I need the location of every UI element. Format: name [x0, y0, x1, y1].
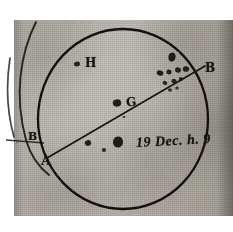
label-neighbor-axis-end-b: B: [28, 131, 37, 142]
scanned-page: H G B A B 19 Dec. h. 9: [0, 0, 233, 232]
label-center-g: G: [125, 95, 136, 108]
paper-left-shadow: [14, 20, 24, 216]
paper-staining: [14, 20, 233, 216]
paper-background: [14, 20, 233, 216]
label-axis-start-a: A: [41, 154, 51, 167]
label-axis-end-b: B: [205, 62, 215, 74]
label-region-h: H: [85, 57, 96, 69]
paper-right-shadow: [217, 20, 233, 216]
